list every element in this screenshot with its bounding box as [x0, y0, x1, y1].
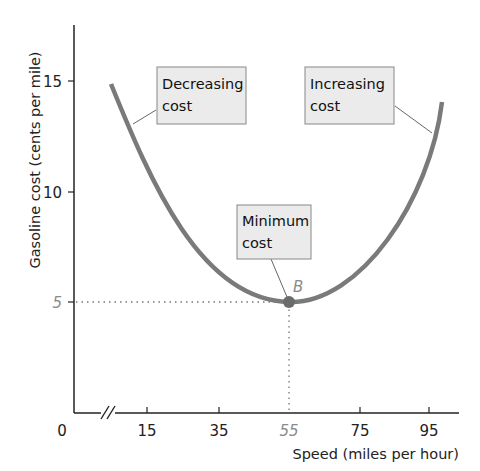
- leader-decreasing: [133, 110, 156, 124]
- annotation-increasing-cost: Increasing cost: [305, 67, 394, 124]
- annotation-decreasing-line1: Decreasing: [162, 76, 244, 92]
- point-b-label: B: [293, 278, 303, 296]
- annotation-minimum-cost: Minimum cost: [237, 205, 311, 259]
- x-tick-label-55: 55: [279, 422, 298, 440]
- axis-break-icon: [101, 405, 115, 419]
- leader-increasing: [395, 106, 432, 133]
- annotation-minimum-line2: cost: [242, 235, 272, 251]
- annotation-minimum-line1: Minimum: [242, 213, 309, 229]
- y-tick-label-15: 15: [43, 73, 62, 91]
- annotation-increasing-line2: cost: [310, 98, 340, 114]
- point-b: [283, 296, 295, 308]
- annotation-decreasing-cost: Decreasing cost: [157, 67, 246, 124]
- x-axis-title: Speed (miles per hour): [292, 446, 459, 462]
- leader-minimum: [271, 259, 287, 297]
- annotation-increasing-line1: Increasing: [310, 76, 385, 92]
- y-tick-label-5: 5: [52, 294, 62, 312]
- annotation-decreasing-line2: cost: [162, 98, 192, 114]
- y-axis-title: Gasoline cost (cents per mile): [27, 51, 43, 268]
- x-tick-label-15: 15: [137, 422, 156, 440]
- x-tick-label-75: 75: [350, 422, 369, 440]
- chart-canvas: B Decreasing cost Increasing cost Minimu…: [0, 0, 480, 471]
- x-tick-label-35: 35: [209, 422, 228, 440]
- y-tick-label-10: 10: [43, 184, 62, 202]
- x-tick-label-95: 95: [419, 422, 438, 440]
- origin-label: 0: [57, 422, 67, 440]
